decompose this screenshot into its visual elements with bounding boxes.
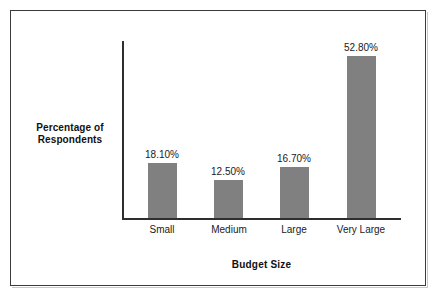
bar-very-large[interactable] [347, 56, 376, 218]
y-axis-title-line2: Respondents [24, 134, 116, 146]
plot-area: 18.10% Small 12.50% Medium 16.70% Large … [0, 0, 438, 298]
bar-value-medium: 12.50% [196, 166, 260, 177]
x-axis-line [122, 218, 401, 220]
bar-large[interactable] [280, 167, 309, 218]
bar-value-small: 18.10% [130, 149, 194, 160]
y-axis-title-line1: Percentage of [24, 122, 116, 134]
y-axis-title: Percentage of Respondents [24, 122, 116, 146]
x-axis-title: Budget Size [122, 259, 401, 270]
bar-value-large: 16.70% [262, 153, 326, 164]
category-label-very-large: Very Large [321, 224, 401, 235]
bar-value-very-large: 52.80% [329, 42, 393, 53]
y-axis-line [122, 41, 124, 220]
chart-screenshot: 18.10% Small 12.50% Medium 16.70% Large … [0, 0, 438, 298]
bar-small[interactable] [148, 163, 177, 218]
bar-medium[interactable] [214, 180, 243, 218]
